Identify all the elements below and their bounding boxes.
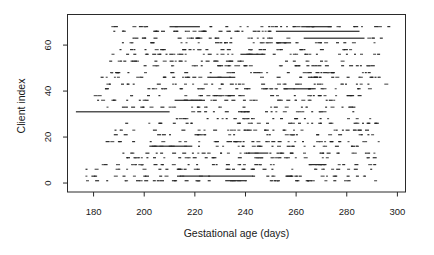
dash-marker	[316, 72, 320, 73]
dash-marker	[138, 164, 140, 165]
dash-marker	[188, 157, 191, 158]
dash-marker	[354, 54, 356, 55]
dash-marker	[230, 38, 232, 39]
solid-run-marker	[225, 180, 245, 181]
dash-marker	[335, 95, 337, 96]
dash-marker	[204, 134, 206, 135]
dash-marker	[298, 65, 300, 66]
dash-marker	[209, 38, 212, 39]
dash-marker	[184, 141, 187, 142]
dash-marker	[217, 38, 219, 39]
dash-marker	[274, 107, 278, 108]
dash-marker	[299, 49, 303, 50]
dash-marker	[360, 65, 362, 66]
dash-marker	[257, 38, 259, 39]
x-tick-label: 180	[86, 206, 102, 217]
dash-marker	[375, 77, 377, 78]
dash-marker	[187, 77, 190, 78]
dash-marker	[172, 153, 176, 154]
dash-marker	[336, 42, 339, 43]
figure: 180200220240260280300 0204060 Gestationa…	[0, 0, 434, 255]
dash-marker	[301, 130, 304, 131]
dash-marker	[301, 111, 304, 112]
dash-marker	[160, 107, 164, 108]
dash-marker	[125, 180, 128, 181]
dash-marker	[153, 180, 156, 181]
dash-marker	[322, 153, 324, 154]
dash-marker	[146, 157, 148, 158]
dash-marker	[352, 111, 354, 112]
dash-marker	[228, 95, 232, 96]
dash-marker	[157, 54, 161, 55]
dash-marker	[134, 61, 137, 62]
dash-marker	[123, 176, 126, 177]
dash-marker	[191, 107, 193, 108]
dash-marker	[217, 118, 219, 119]
dash-marker	[294, 141, 296, 142]
dash-marker	[169, 134, 171, 135]
dash-marker	[197, 153, 199, 154]
dash-marker	[218, 88, 221, 89]
dash-marker	[379, 77, 381, 78]
dash-marker	[259, 157, 263, 158]
dash-marker	[185, 54, 187, 55]
dash-marker	[244, 88, 248, 89]
dash-marker	[160, 180, 164, 181]
dash-marker	[218, 95, 221, 96]
dash-marker	[265, 88, 268, 89]
x-tick-label: 260	[288, 206, 304, 217]
dash-marker	[387, 26, 390, 27]
dash-marker	[247, 111, 250, 112]
dash-marker	[157, 180, 160, 181]
dash-marker	[250, 72, 252, 73]
dash-marker	[275, 111, 277, 112]
dash-marker	[320, 72, 322, 73]
dash-marker	[159, 176, 162, 177]
dash-marker	[86, 180, 89, 181]
dash-marker	[269, 134, 271, 135]
dash-marker	[224, 42, 226, 43]
dash-marker	[253, 130, 257, 131]
dash-marker	[287, 146, 291, 147]
dash-marker	[333, 100, 335, 101]
dash-marker	[264, 130, 266, 131]
dash-marker	[299, 77, 302, 78]
dash-marker	[349, 95, 352, 96]
dash-marker	[182, 77, 184, 78]
dash-marker	[345, 84, 347, 85]
dash-marker	[224, 100, 228, 101]
dash-marker	[133, 164, 136, 165]
dash-marker	[206, 95, 210, 96]
dash-marker	[189, 49, 192, 50]
dash-marker	[291, 134, 295, 135]
dash-marker	[311, 77, 314, 78]
dash-marker	[349, 65, 353, 66]
dash-marker	[249, 130, 252, 131]
dash-marker	[191, 123, 193, 124]
dash-marker	[325, 107, 327, 108]
dash-marker	[354, 164, 358, 165]
data-points	[76, 26, 390, 181]
dash-marker	[285, 107, 289, 108]
solid-run-marker	[76, 111, 170, 112]
dash-marker	[317, 84, 319, 85]
dash-marker	[218, 107, 220, 108]
dash-marker	[170, 61, 174, 62]
dash-marker	[231, 54, 233, 55]
dash-marker	[182, 49, 186, 50]
dash-marker	[232, 95, 235, 96]
dash-marker	[198, 141, 200, 142]
dash-marker	[169, 54, 173, 55]
dash-marker	[133, 54, 136, 55]
dash-marker	[265, 111, 268, 112]
dash-marker	[110, 141, 114, 142]
dash-marker	[270, 95, 274, 96]
dash-marker	[324, 146, 327, 147]
dash-marker	[111, 72, 113, 73]
dash-marker	[338, 164, 341, 165]
dash-marker	[109, 61, 112, 62]
dash-marker	[372, 38, 375, 39]
dash-marker	[342, 130, 344, 131]
dash-marker	[127, 84, 129, 85]
dash-marker	[198, 134, 202, 135]
